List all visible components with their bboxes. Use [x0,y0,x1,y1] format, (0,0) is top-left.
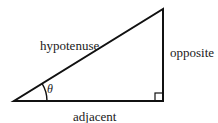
angle-label: θ [47,82,53,96]
triangle-figure: θ hypotenuse opposite adjacent [0,0,218,123]
right-angle-marker [155,93,163,101]
hypotenuse-label: hypotenuse [40,38,99,53]
adjacent-label: adjacent [73,109,117,123]
right-triangle-diagram: θ hypotenuse opposite adjacent [0,0,218,123]
opposite-label: opposite [170,45,214,60]
triangle-shape [14,9,163,101]
